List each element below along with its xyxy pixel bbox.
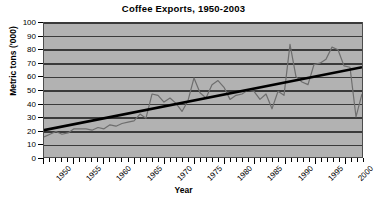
x-axis-tick-label: 1985 xyxy=(266,164,285,183)
x-axis-minor-tick xyxy=(327,158,328,162)
x-axis-minor-tick xyxy=(115,158,116,162)
x-axis-tick-label: 1990 xyxy=(296,164,315,183)
x-axis-minor-tick xyxy=(109,158,110,162)
x-axis-tick-label: 1950 xyxy=(54,164,73,183)
series-layer xyxy=(44,23,362,157)
x-axis-minor-tick xyxy=(97,158,98,162)
x-axis-minor-tick xyxy=(230,158,231,162)
x-axis-minor-tick xyxy=(55,158,56,162)
x-axis-minor-tick xyxy=(176,158,177,162)
x-axis-minor-tick xyxy=(67,158,68,162)
x-axis-minor-tick xyxy=(188,158,189,162)
x-axis-minor-tick xyxy=(248,158,249,162)
x-axis-minor-tick xyxy=(236,158,237,162)
x-axis-minor-tick xyxy=(297,158,298,162)
x-axis-minor-tick xyxy=(212,158,213,162)
x-axis-minor-tick xyxy=(333,158,334,162)
x-axis-minor-tick xyxy=(121,158,122,162)
y-axis-tick-label: 20 xyxy=(27,126,36,135)
chart-title: Coffee Exports, 1950-2003 xyxy=(0,3,367,14)
x-axis-minor-tick xyxy=(140,158,141,162)
x-axis-tick-label: 1955 xyxy=(84,164,103,183)
x-axis-tick-label: 1970 xyxy=(175,164,194,183)
x-axis-minor-tick xyxy=(363,158,364,162)
y-axis-tick-label: 80 xyxy=(27,45,36,54)
x-axis-tick-label: 1965 xyxy=(145,164,164,183)
x-axis-minor-tick xyxy=(218,158,219,162)
y-axis-tick-label: 50 xyxy=(27,86,36,95)
y-axis-tick-label: 70 xyxy=(27,58,36,67)
x-axis-minor-tick xyxy=(79,158,80,162)
x-axis-minor-tick xyxy=(152,158,153,162)
x-axis-tick-label: 1960 xyxy=(115,164,134,183)
x-axis-minor-tick xyxy=(266,158,267,162)
plot-area xyxy=(43,22,363,158)
x-axis-minor-tick xyxy=(309,158,310,162)
x-axis-minor-tick xyxy=(357,158,358,162)
x-axis-tick-label: 1980 xyxy=(235,164,254,183)
y-axis-tick-label: 0 xyxy=(32,154,36,163)
x-axis-minor-tick xyxy=(260,158,261,162)
x-axis-minor-tick xyxy=(85,158,86,162)
trendline xyxy=(44,67,362,130)
x-axis-minor-tick xyxy=(339,158,340,162)
x-axis-tick-label: 1995 xyxy=(326,164,345,183)
x-axis-minor-tick xyxy=(158,158,159,162)
x-axis-minor-tick xyxy=(321,158,322,162)
x-axis-minor-tick xyxy=(291,158,292,162)
x-axis-minor-tick xyxy=(206,158,207,162)
data-line xyxy=(44,44,362,136)
x-axis-minor-tick xyxy=(242,158,243,162)
x-axis-minor-tick xyxy=(61,158,62,162)
y-axis-tick-label: 100 xyxy=(23,18,36,27)
x-axis-minor-tick xyxy=(351,158,352,162)
x-axis-minor-tick xyxy=(146,158,147,162)
y-axis-tick-label: 90 xyxy=(27,31,36,40)
x-axis-minor-tick xyxy=(278,158,279,162)
x-axis-title: Year xyxy=(0,185,367,195)
x-axis-tick-label: 2000 xyxy=(356,164,375,183)
x-axis-minor-tick xyxy=(182,158,183,162)
y-axis-ticks: 0102030405060708090100 xyxy=(0,22,43,158)
y-axis-tick-label: 10 xyxy=(27,140,36,149)
x-axis-minor-tick xyxy=(128,158,129,162)
y-axis-tick-label: 40 xyxy=(27,99,36,108)
x-axis-minor-tick xyxy=(91,158,92,162)
x-axis-tick-label: 1975 xyxy=(205,164,224,183)
x-axis-minor-tick xyxy=(272,158,273,162)
x-axis-minor-tick xyxy=(49,158,50,162)
y-axis-tick-label: 30 xyxy=(27,113,36,122)
x-axis-minor-tick xyxy=(303,158,304,162)
y-axis-tick-label: 60 xyxy=(27,72,36,81)
x-axis-minor-tick xyxy=(200,158,201,162)
x-axis-minor-tick xyxy=(170,158,171,162)
